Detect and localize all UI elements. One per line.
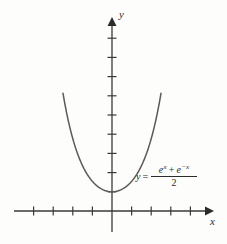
y-axis-label: y xyxy=(119,9,124,20)
graph-figure: y x y = ex+e−x 2 xyxy=(0,0,227,244)
numerator-operator: + xyxy=(167,164,177,175)
equation-denominator: 2 xyxy=(170,177,179,188)
numerator-term2-exponent: −x xyxy=(181,163,189,171)
coordinate-plot xyxy=(0,0,227,244)
equation-annotation: y = ex+e−x 2 xyxy=(136,165,197,188)
x-axis-label: x xyxy=(210,216,215,227)
equation-equals-sign: = xyxy=(142,172,148,182)
equation-fraction: ex+e−x 2 xyxy=(151,165,197,188)
y-axis-arrowhead xyxy=(108,17,117,26)
equation-lhs: y xyxy=(136,172,140,182)
equation-numerator: ex+e−x xyxy=(157,165,192,176)
